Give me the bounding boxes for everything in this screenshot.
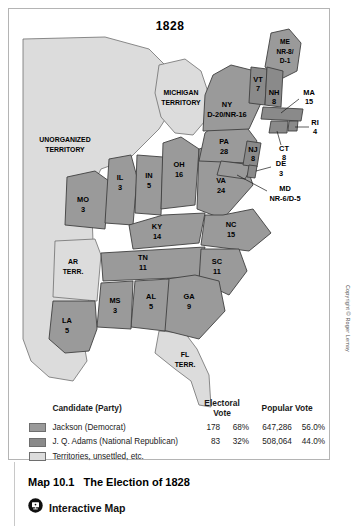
territory-label-florida-2: TERR. — [175, 361, 196, 368]
region-label-IN: IN — [145, 171, 152, 180]
legend-electoral-pct-adams: 32% — [220, 435, 249, 449]
election-map-figure: 1828 — [0, 0, 353, 526]
region-MA — [261, 107, 303, 121]
region-value-OH: 16 — [175, 170, 183, 179]
legend-swatch-jackson — [29, 423, 46, 432]
legend-header-electoral: Electoral Vote — [195, 395, 249, 421]
region-value-NC: 15 — [227, 230, 235, 239]
territory-label-arkansas-1: AR — [68, 258, 78, 265]
legend-popular-territories — [249, 449, 292, 463]
region-value-LA: 5 — [65, 326, 69, 335]
legend-swatch-cell-adams — [29, 435, 52, 449]
region-value-GA: 9 — [187, 302, 191, 311]
copyright-credit: Copyright © Roger Lemay — [345, 285, 351, 352]
legend-electoral-adams: 83 — [195, 435, 220, 449]
region-label-KY: KY — [152, 222, 162, 231]
figure-number: Map 10.1 — [28, 476, 74, 488]
legend-popular-pct-adams: 44.0% — [292, 435, 325, 449]
region-label-GA: GA — [183, 292, 195, 301]
territory-label-michigan-1: MICHIGAN — [164, 89, 199, 96]
legend-row-territories: Territories, unsettled, etc. — [29, 449, 325, 463]
region-value-PA: 28 — [220, 147, 228, 156]
region-label-PA: PA — [219, 137, 229, 146]
region-label-MA: MA — [303, 88, 315, 97]
region-michigan-territory — [155, 59, 209, 135]
region-value-VT: 7 — [256, 84, 260, 93]
legend-header-popular: Popular Vote — [249, 395, 325, 421]
territory-label-florida-1: FL — [181, 351, 189, 358]
region-value-TN: 11 — [139, 263, 147, 272]
figure-title: The Election of 1828 — [83, 476, 189, 488]
region-label-LA: LA — [62, 316, 73, 325]
region-value-DE: 3 — [279, 169, 283, 178]
region-value-ME-2: D-1 — [280, 57, 291, 64]
region-label-IL: IL — [117, 173, 124, 182]
region-CT — [269, 121, 288, 133]
legend-electoral-jackson: 178 — [195, 421, 220, 435]
legend-swatch-adams — [29, 438, 46, 447]
region-label-VT: VT — [253, 75, 263, 84]
legend-popular-jackson: 647,286 — [249, 421, 292, 435]
region-label-DE: DE — [276, 159, 286, 168]
territory-label-unorganized-2: TERRITORY — [45, 146, 85, 153]
legend-popular-adams: 508,064 — [249, 435, 292, 449]
legend-header-candidate: Candidate (Party) — [52, 395, 195, 421]
region-label-NY: NY — [222, 100, 232, 109]
legend-header-spacer — [29, 395, 52, 421]
legend-electoral-territories — [195, 449, 220, 463]
region-label-AL: AL — [146, 292, 156, 301]
legend-candidate-adams: J. Q. Adams (National Republican) — [52, 435, 195, 449]
region-NC — [201, 209, 271, 251]
region-value-RI: 4 — [313, 127, 318, 136]
territory-label-michigan-2: TERRITORY — [161, 99, 201, 106]
region-label-MS: MS — [109, 296, 120, 305]
region-label-MD: MD — [279, 184, 291, 193]
interactive-map-label: Interactive Map — [49, 502, 125, 514]
territory-label-arkansas-2: TERR. — [63, 268, 84, 275]
region-value-MA: 15 — [305, 97, 313, 106]
legend-header-row: Candidate (Party) Electoral Vote Popular… — [29, 395, 325, 421]
region-label-TN: TN — [138, 253, 148, 262]
territory-label-unorganized-1: UNORGANIZED — [39, 136, 90, 143]
region-value-MS: 3 — [113, 306, 117, 315]
region-label-OH: OH — [173, 160, 184, 169]
map-graphic: ME NR-8/ D-1 VT 7 NH 8 MA 15 RI 4 — [9, 9, 331, 461]
region-label-NJ: NJ — [248, 145, 257, 154]
region-label-CT: CT — [279, 144, 289, 153]
region-value-AL: 5 — [149, 302, 153, 311]
region-DE — [247, 165, 257, 178]
region-label-NH: NH — [269, 88, 280, 97]
interactive-map-link[interactable]: Interactive Map — [28, 498, 125, 517]
region-value-SC: 11 — [213, 267, 221, 276]
region-RI — [288, 121, 298, 131]
caption-rule — [14, 462, 15, 526]
region-value-MO: 3 — [81, 205, 85, 214]
region-label-NC: NC — [226, 220, 237, 229]
legend-electoral-pct-territories — [220, 449, 249, 463]
legend-swatch-cell-territories — [29, 449, 52, 463]
region-LA — [49, 301, 97, 353]
region-value-NY: D-20/NR-16 — [207, 110, 246, 119]
figure-caption: Map 10.1The Election of 1828 — [28, 476, 328, 488]
legend-candidate-jackson: Jackson (Democrat) — [52, 421, 195, 435]
region-value-IL: 3 — [118, 183, 122, 192]
region-value-KY: 14 — [153, 232, 162, 241]
region-value-NJ: 8 — [251, 154, 255, 163]
map-legend: Candidate (Party) Electoral Vote Popular… — [29, 395, 319, 463]
region-label-MO: MO — [77, 195, 89, 204]
region-label-RI: RI — [311, 118, 318, 127]
legend-row-jackson: Jackson (Democrat) 178 68% 647,286 56.0% — [29, 421, 325, 435]
region-label-ME: ME — [280, 38, 290, 45]
legend-electoral-pct-jackson: 68% — [220, 421, 249, 435]
legend-swatch-territories — [29, 452, 46, 461]
monitor-icon — [28, 498, 43, 517]
region-value-ME-1: NR-8/ — [276, 48, 293, 55]
legend-candidate-territories: Territories, unsettled, etc. — [52, 449, 195, 463]
legend-row-adams: J. Q. Adams (National Republican) 83 32%… — [29, 435, 325, 449]
region-value-IN: 5 — [147, 181, 151, 190]
region-value-VA: 24 — [217, 186, 226, 195]
legend-swatch-cell-jackson — [29, 421, 52, 435]
legend-popular-pct-territories — [292, 449, 325, 463]
region-value-MD: NR-6/D-5 — [269, 194, 300, 203]
region-KY — [129, 213, 205, 249]
